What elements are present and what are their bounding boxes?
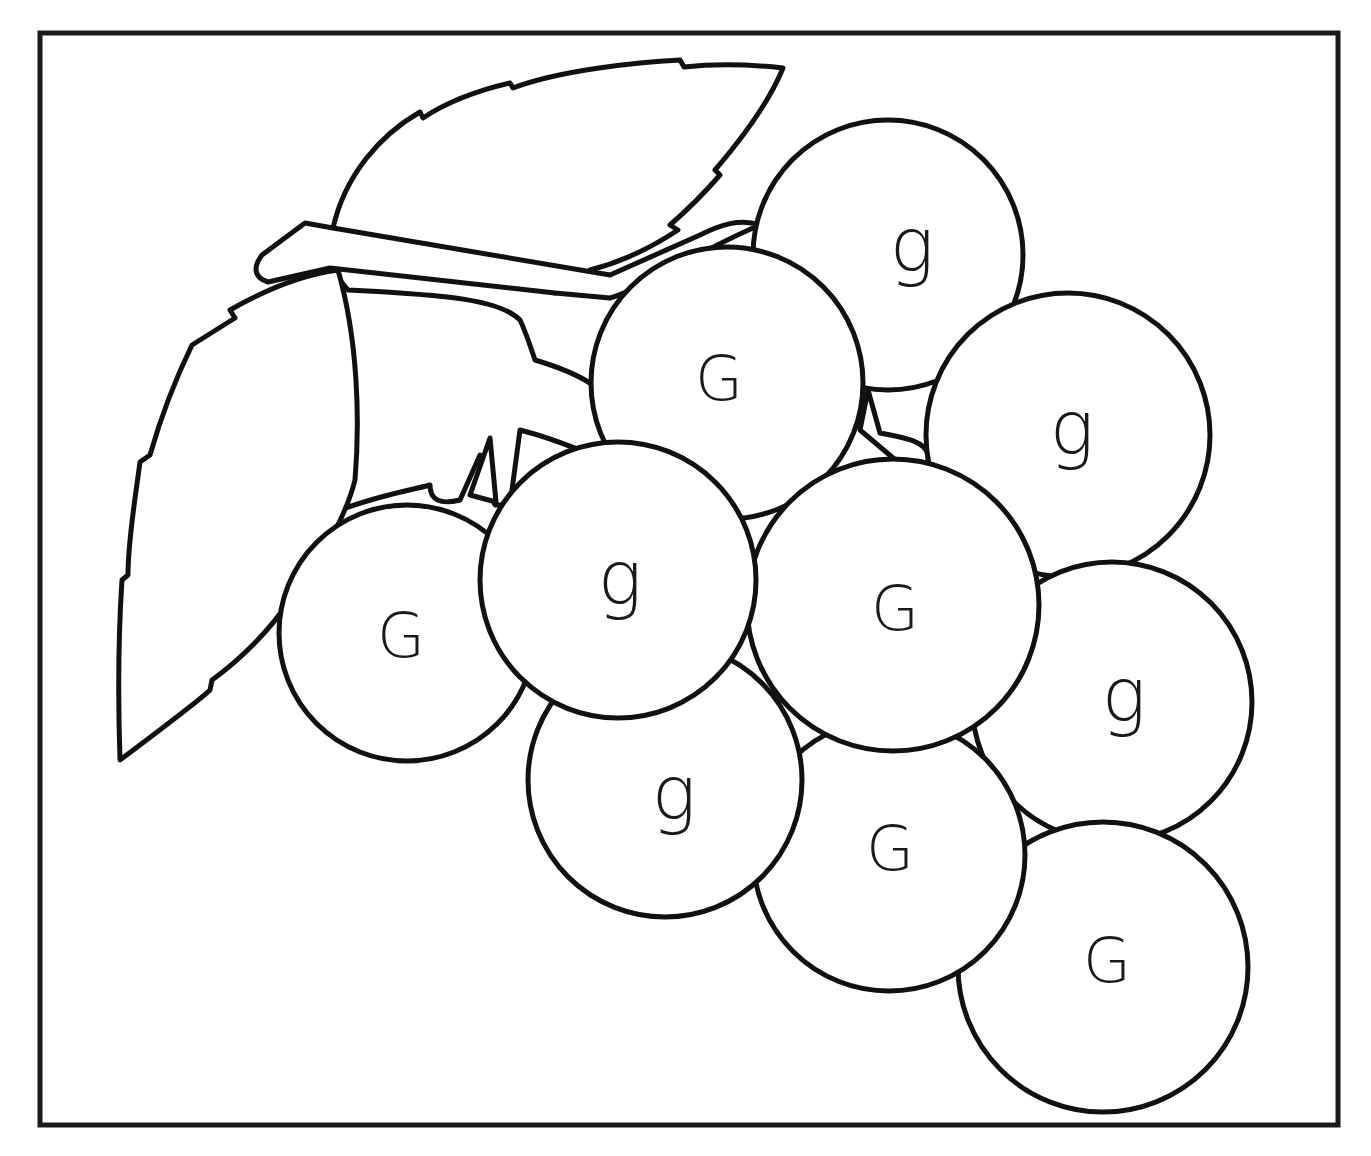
grape-center[interactable]: g <box>480 442 756 718</box>
grapes-drawing: g g G G g G G <box>0 0 1371 1156</box>
coloring-worksheet: g g G G g G G <box>0 0 1371 1156</box>
grape-center-right[interactable]: G <box>747 459 1039 751</box>
grape-letter-label: G <box>377 599 425 672</box>
grape-letter-label: G <box>695 342 743 415</box>
grape-letter-label: g <box>598 535 642 621</box>
grape-letter-label: g <box>652 750 696 836</box>
grape-letter-label: G <box>1083 924 1131 997</box>
grape-letter-label: G <box>866 812 914 885</box>
grape-letter-label: G <box>871 572 919 645</box>
grape-letter-label: g <box>1050 385 1094 471</box>
grape-letter-label: g <box>1102 652 1146 738</box>
grape-letter-label: g <box>890 202 934 288</box>
